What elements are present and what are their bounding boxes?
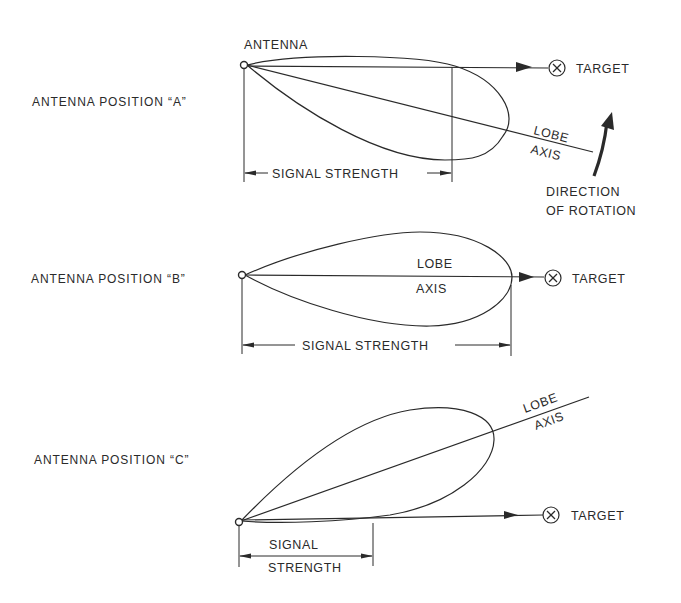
antenna-label: ANTENNA <box>244 38 308 52</box>
target-icon <box>545 270 561 286</box>
diagram-position-b: ANTENNA POSITION “B” TARGET LOBE AXIS SI… <box>31 232 625 356</box>
axis-label: AXIS <box>529 142 562 163</box>
target-label: TARGET <box>571 509 624 523</box>
lobe-label: LOBE <box>417 257 453 271</box>
lobe-axis-b <box>246 275 544 277</box>
lobe-switching-diagram: ANTENNA POSITION “A” ANTENNA TARGET SIGN… <box>0 0 681 603</box>
target-label: TARGET <box>572 272 625 286</box>
antenna-icon <box>239 272 246 279</box>
axis-label: AXIS <box>416 282 447 296</box>
arrowhead-icon <box>519 272 534 282</box>
rotation-arrowhead-icon <box>601 112 614 130</box>
arrowhead-icon <box>504 511 518 519</box>
signal-strength-label: SIGNAL STRENGTH <box>272 167 399 181</box>
rotation-label-line2: OF ROTATION <box>546 204 636 218</box>
position-a-label: ANTENNA POSITION “A” <box>32 95 187 109</box>
signal-label-line1: SIGNAL <box>269 538 318 552</box>
position-c-label: ANTENNA POSITION “C” <box>34 453 189 467</box>
target-line-c <box>242 515 543 520</box>
target-line-a <box>248 66 548 68</box>
diagram-position-c: ANTENNA POSITION “C” TARGET LOBE AXIS SI… <box>34 390 624 575</box>
lobe-axis-c <box>241 397 589 521</box>
target-icon <box>549 60 565 76</box>
lobe-a <box>247 56 509 160</box>
rotation-label-line1: DIRECTION <box>546 185 620 199</box>
signal-strength-label: SIGNAL STRENGTH <box>302 339 429 353</box>
lobe-b <box>245 232 512 326</box>
antenna-icon <box>236 519 243 526</box>
antenna-icon <box>241 62 248 69</box>
position-b-label: ANTENNA POSITION “B” <box>31 272 186 286</box>
axis-label: AXIS <box>532 409 566 433</box>
lobe-c <box>241 408 494 523</box>
target-label: TARGET <box>576 62 629 76</box>
diagram-position-a: ANTENNA POSITION “A” ANTENNA TARGET SIGN… <box>32 38 636 218</box>
arrowhead-icon <box>516 62 532 72</box>
target-icon <box>543 507 559 523</box>
rotation-arrow-icon <box>594 122 607 176</box>
lobe-label: LOBE <box>532 123 570 145</box>
signal-label-line2: STRENGTH <box>268 561 342 575</box>
